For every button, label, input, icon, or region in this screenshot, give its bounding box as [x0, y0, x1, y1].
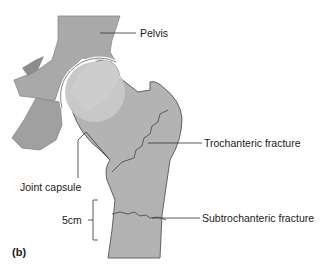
joint-capsule-label: Joint capsule — [20, 181, 81, 193]
scale-label: 5cm — [62, 214, 82, 226]
pelvis-label: Pelvis — [140, 27, 168, 39]
subtrochanteric-fracture-label: Subtrochanteric fracture — [202, 212, 314, 224]
trochanteric-fracture-label: Trochanteric fracture — [204, 137, 300, 149]
hip-anatomy-illustration — [0, 0, 324, 271]
panel-label: (b) — [12, 246, 26, 258]
scale-bracket — [93, 200, 98, 240]
ischium-shape — [12, 98, 62, 150]
